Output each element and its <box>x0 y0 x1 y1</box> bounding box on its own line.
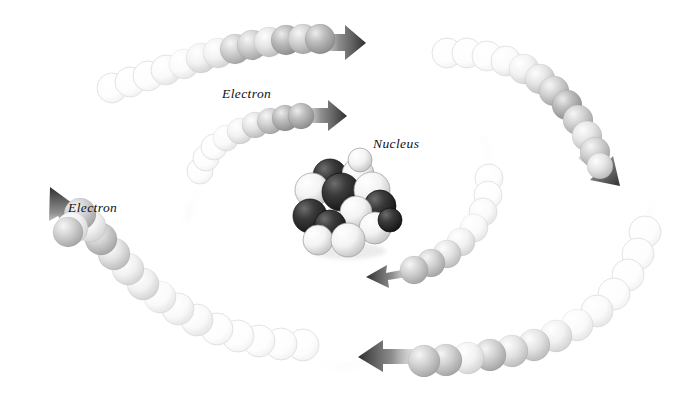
electron-sphere <box>587 153 613 179</box>
atom-illustration-svg <box>0 0 673 397</box>
illustration-canvas: Electron Electron Nucleus <box>0 0 673 397</box>
nucleus-neutron <box>303 225 333 255</box>
nucleus-neutron <box>348 148 372 172</box>
nucleus-proton <box>378 208 402 232</box>
nucleus-neutron <box>331 223 365 257</box>
label-electron-outer-left: Electron <box>68 200 117 216</box>
electron-sphere <box>408 345 440 377</box>
electron-sphere <box>53 217 83 247</box>
electron-sphere <box>305 24 335 54</box>
electron-sphere <box>400 256 428 284</box>
label-electron-outer-top: Electron <box>222 86 271 102</box>
electron-sphere <box>288 103 314 129</box>
label-nucleus: Nucleus <box>373 136 419 152</box>
